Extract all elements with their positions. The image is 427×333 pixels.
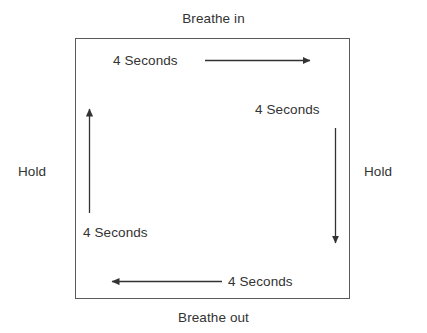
breathing-square	[75, 38, 350, 299]
duration-label-top: 4 Seconds	[113, 54, 178, 68]
duration-label-left: 4 Seconds	[83, 226, 148, 240]
phase-label-hold-left: Hold	[18, 165, 46, 179]
duration-label-right: 4 Seconds	[255, 103, 320, 117]
phase-label-breathe-in: Breathe in	[0, 12, 427, 26]
phase-label-hold-right: Hold	[364, 165, 392, 179]
box-breathing-diagram: Breathe in Hold Hold Breathe out 4 Secon…	[0, 0, 427, 333]
duration-label-bottom: 4 Seconds	[228, 275, 293, 289]
phase-label-breathe-out: Breathe out	[0, 311, 427, 325]
